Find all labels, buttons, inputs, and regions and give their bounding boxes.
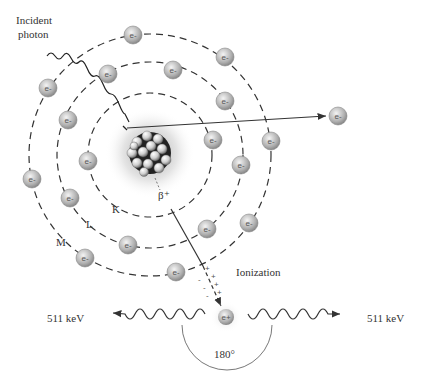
energy-right-label: 511 keV [367,312,404,324]
electron-label: e- [169,66,176,75]
electron-label: e- [203,225,210,234]
shell-l-label: L [86,218,93,230]
electron-label: e- [172,268,179,277]
energy-left-label: 511 keV [47,312,84,324]
electron-label: e- [81,254,88,263]
electron-label: e- [237,161,244,170]
svg-text:-: - [198,275,201,284]
electron-label: e- [124,241,131,250]
svg-text:-: - [206,291,209,300]
electron-label: e- [104,70,111,79]
ionization-label: Ionization [236,266,281,278]
electron-label: e- [334,112,341,121]
atom-diagram: ++ ++ --- e+ e-e-e-e-e-e-e-e-e-e-e-e-e-e… [0,0,421,376]
electron-label: e- [84,157,91,166]
annihilation-photon-left [113,309,205,319]
positron-track [171,209,203,266]
electron-label: e- [209,136,216,145]
incident-label-2: photon [18,28,49,40]
electron-label: e- [44,84,51,93]
svg-text:+: + [205,264,210,273]
electron-label: e- [28,175,35,184]
electron-label: e- [267,137,274,146]
electron-label: e- [245,219,252,228]
electron-label: e- [221,53,228,62]
positron-label: e+ [221,313,230,322]
electron-label: e- [66,194,73,203]
electron-label: e- [64,116,71,125]
annihilation-photon-right [248,309,340,319]
electron-label: e- [221,97,228,106]
beta-label: β⁺ [158,189,170,201]
incident-label-1: Incident [16,14,52,26]
incident-photon-wave [47,53,129,122]
shell-m-label: M [56,236,66,248]
electron-label: e- [129,31,136,40]
svg-text:+: + [217,288,222,297]
angle-label: 180° [214,348,235,360]
shell-k-label: K [112,203,120,215]
